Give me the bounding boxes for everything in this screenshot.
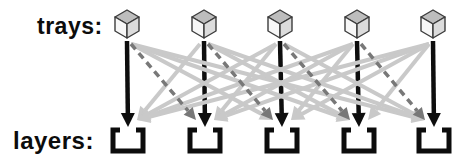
layer-bracket-3 <box>267 130 297 151</box>
tray-cube-1 <box>115 10 139 38</box>
tray-cube-2 <box>192 10 216 38</box>
arrow-line-tray5-layer5 <box>433 41 434 113</box>
layer-bracket-1 <box>113 130 143 151</box>
black-arrow-heads <box>121 113 441 127</box>
arrow-line-tray1-layer1 <box>127 41 128 113</box>
layer-bracket-4 <box>344 130 374 151</box>
arrow-head-tray2-layer2 <box>198 113 212 127</box>
layers-label: layers: <box>13 128 94 153</box>
arrow-head-tray1-layer1 <box>121 113 135 127</box>
trays-layers-figure: trays: layers: <box>0 0 467 163</box>
arrow-head-tray3-layer3 <box>275 113 289 127</box>
layer-bracket-5 <box>419 130 449 151</box>
arrow-line-tray3-layer3 <box>280 41 282 113</box>
tray-cube-3 <box>268 10 292 38</box>
arrow-head-tray5-layer5 <box>427 113 441 127</box>
arrow-head-tray4-layer4 <box>352 113 366 127</box>
layer-bracket-2 <box>190 130 220 151</box>
trays-label: trays: <box>37 14 103 38</box>
tray-cube-5 <box>421 10 445 38</box>
tray-cube-4 <box>345 10 369 38</box>
